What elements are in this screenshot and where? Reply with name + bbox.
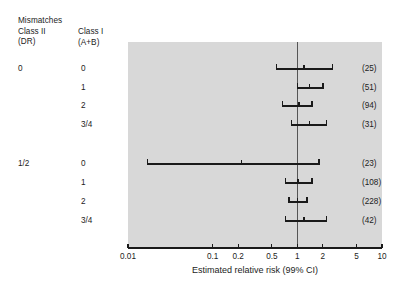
count-label: (31) [362, 120, 377, 130]
ci-row [148, 159, 319, 165]
count-label: (108) [362, 178, 381, 188]
ci-row [291, 120, 326, 126]
x-tick-label: 0.01 [120, 252, 136, 262]
class1-row-label: 2 [81, 197, 86, 207]
ci-rows-group [148, 42, 333, 248]
plot-vector-layer [0, 0, 403, 286]
count-label: (25) [362, 64, 377, 74]
ci-row [285, 216, 326, 222]
class1-row-label: 1 [81, 178, 86, 188]
x-tick-label: 10 [377, 252, 386, 262]
class1-row-label: 0 [81, 64, 86, 74]
class1-row-label: 0 [81, 159, 86, 169]
ci-row [289, 197, 307, 203]
count-label: (228) [362, 197, 381, 207]
class1-row-label: 3/4 [81, 120, 92, 130]
x-axis-group [128, 244, 382, 248]
ci-row [285, 178, 312, 184]
class1-row-label: 1 [81, 83, 86, 93]
x-tick-label: 2 [321, 252, 326, 262]
forest-plot-figure: Mismatches Class II (DR) Class I (A+B) 0… [0, 0, 403, 286]
x-tick-label: 1 [295, 252, 300, 262]
class1-row-label: 3/4 [81, 216, 92, 226]
ci-row [277, 64, 333, 70]
class2-group-label: 1/2 [18, 159, 29, 169]
class1-row-label: 2 [81, 101, 86, 111]
x-tick-label: 0.2 [232, 252, 243, 262]
ci-row [297, 83, 322, 89]
x-axis-title: Estimated relative risk (99% CI) [192, 265, 318, 275]
count-label: (51) [362, 83, 377, 93]
count-label: (42) [362, 216, 377, 226]
count-label: (23) [362, 159, 377, 169]
x-tick-label: 0.5 [266, 252, 277, 262]
count-label: (94) [362, 101, 377, 111]
x-tick-label: 5 [354, 252, 359, 262]
x-tick-label: 0.1 [207, 252, 218, 262]
class2-group-label: 0 [18, 64, 23, 74]
